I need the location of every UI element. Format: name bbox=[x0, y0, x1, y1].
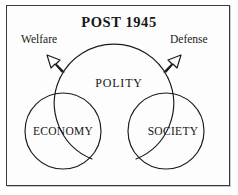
defense-arrowhead-icon bbox=[164, 55, 181, 72]
figure-root: POST 1945 Welfare Defense POLITY ECONOMY… bbox=[0, 0, 238, 195]
economy-label: ECONOMY bbox=[17, 125, 109, 137]
welfare-arrowhead-icon bbox=[47, 55, 64, 72]
welfare-label: Welfare bbox=[21, 33, 57, 45]
figure-title: POST 1945 bbox=[0, 14, 238, 31]
society-label: SOCIETY bbox=[127, 125, 219, 137]
polity-label: POLITY bbox=[0, 76, 238, 91]
polity-top-arc bbox=[60, 44, 168, 78]
defense-label: Defense bbox=[170, 33, 208, 45]
